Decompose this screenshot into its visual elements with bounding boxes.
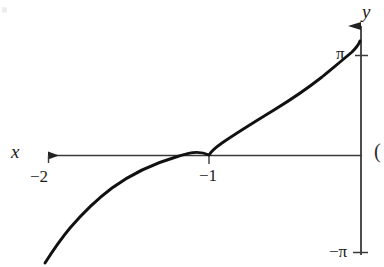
y-tick-label-neg-pi: −π	[329, 243, 347, 260]
y-axis-label: y	[362, 2, 370, 21]
plot-canvas	[0, 0, 384, 267]
x-axis-label: x	[11, 142, 19, 161]
graph-figure: y x −2 −1 π −π (	[0, 0, 384, 267]
clipped-edge-glyph: (	[374, 141, 381, 161]
x-tick-label-neg2: −2	[30, 168, 48, 185]
y-tick-label-pi: π	[336, 45, 345, 62]
x-tick-label-neg1: −1	[199, 167, 217, 184]
curve-path	[45, 41, 360, 263]
